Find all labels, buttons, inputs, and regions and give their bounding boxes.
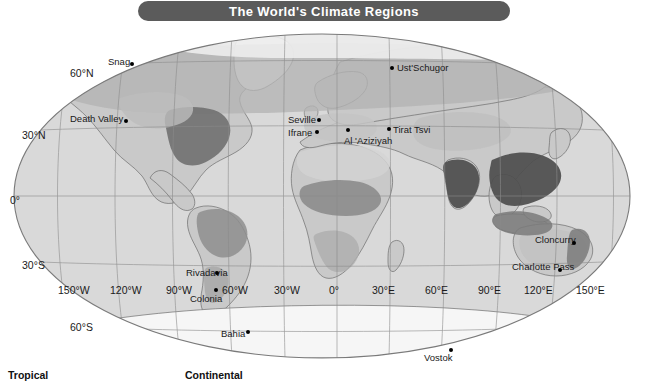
city-dot-al-aziziyah bbox=[346, 128, 350, 132]
latitude-label: 60°S bbox=[70, 322, 93, 333]
latitude-label: 30°N bbox=[22, 130, 45, 141]
city-label-rivadavia: Rivadavia bbox=[186, 268, 228, 278]
city-dot-tirat-tsvi bbox=[387, 127, 391, 131]
city-dot-ifrane bbox=[315, 130, 319, 134]
longitude-label: 60°W bbox=[222, 285, 248, 296]
longitude-label: 90°W bbox=[166, 285, 192, 296]
city-label-ust-schugor: Ust'Schugor bbox=[397, 63, 448, 73]
city-dot-snag bbox=[130, 62, 134, 66]
longitude-label: 0° bbox=[329, 285, 339, 296]
city-label-ifrane: Ifrane bbox=[288, 128, 312, 138]
city-dot-cloncurry bbox=[572, 241, 576, 245]
longitude-label: 90°E bbox=[478, 285, 501, 296]
city-dot-ust-schugor bbox=[390, 66, 394, 70]
longitude-label: 120°E bbox=[524, 285, 553, 296]
climate-legend: Tropical Continental bbox=[0, 366, 645, 378]
city-dot-rivadavia bbox=[215, 271, 219, 275]
city-label-death-valley: Death Valley bbox=[70, 114, 123, 124]
legend-item-tropical: Tropical bbox=[8, 370, 48, 381]
city-label-colonia: Colonia bbox=[190, 294, 222, 304]
city-label-bahia: Bahia bbox=[221, 329, 245, 339]
city-dot-death-valley bbox=[124, 119, 128, 123]
page-title: The World's Climate Regions bbox=[229, 4, 419, 19]
longitude-label: 150°W bbox=[58, 285, 90, 296]
city-dot-seville bbox=[317, 118, 321, 122]
city-label-snag: Snag bbox=[108, 57, 130, 67]
longitude-label: 120°W bbox=[110, 285, 142, 296]
longitude-label: 150°E bbox=[576, 285, 605, 296]
city-label-charlotte-pass: Charlotte Pass bbox=[512, 262, 574, 272]
city-dot-bahia bbox=[246, 330, 250, 334]
city-label-seville: Seville bbox=[288, 115, 316, 125]
latitude-label: 60°N bbox=[70, 68, 93, 79]
longitude-label: 30°E bbox=[372, 285, 395, 296]
city-label-cloncurry: Cloncurry bbox=[535, 235, 576, 245]
city-dot-colonia bbox=[214, 288, 218, 292]
city-dot-charlotte-pass bbox=[558, 268, 562, 272]
city-dot-vostok bbox=[449, 348, 453, 352]
longitude-label: 60°E bbox=[425, 285, 448, 296]
city-label-al-aziziyah: Al 'Aziziyah bbox=[344, 136, 392, 146]
latitude-label: 30°S bbox=[22, 260, 45, 271]
longitude-label: 30°W bbox=[274, 285, 300, 296]
city-label-vostok: Vostok bbox=[424, 353, 453, 363]
legend-item-continental: Continental bbox=[185, 370, 243, 381]
map-ocean bbox=[14, 29, 630, 358]
city-label-tirat-tsvi: Tirat Tsvi bbox=[393, 125, 430, 135]
map-title-banner: The World's Climate Regions bbox=[138, 1, 510, 21]
latitude-label: 0° bbox=[10, 195, 20, 206]
